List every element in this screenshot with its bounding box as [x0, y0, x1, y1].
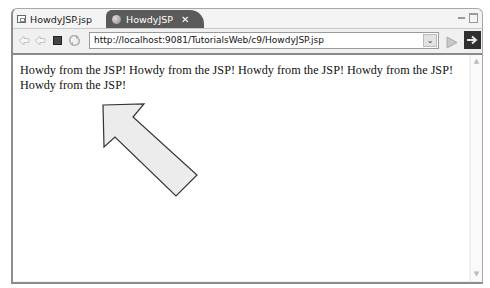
annotation-arrow-icon: [0, 0, 490, 288]
